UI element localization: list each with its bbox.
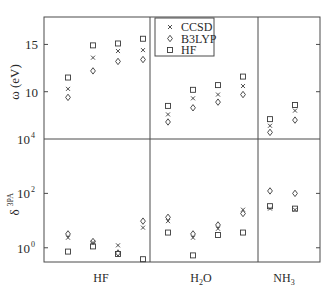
data-point-b3lyp-delta — [116, 250, 121, 256]
data-point-ccsd-energy — [241, 84, 245, 88]
data-point-hf-delta — [216, 232, 221, 237]
data-point-hf-energy — [191, 87, 196, 92]
data-point-ccsd-delta — [116, 243, 120, 247]
data-point-hf-energy — [216, 83, 221, 88]
data-point-ccsd-energy — [66, 87, 70, 91]
data-point-b3lyp-energy — [66, 94, 71, 100]
data-point-hf-delta — [166, 230, 171, 235]
data-point-b3lyp-energy — [216, 99, 221, 105]
y-tick-label: 15 — [25, 37, 38, 52]
chart-svg: 1015100102104ω (eV)δ3PACCSDB3LYPHFHFH2ON… — [0, 0, 335, 292]
data-point-b3lyp-energy — [141, 56, 146, 62]
data-point-hf-energy — [66, 75, 71, 80]
data-point-ccsd-energy — [268, 124, 272, 128]
data-point-hf-delta — [268, 204, 273, 209]
data-point-ccsd-energy — [293, 109, 297, 113]
data-point-b3lyp-energy — [116, 58, 121, 64]
svg-text:δ: δ — [7, 209, 22, 215]
data-point-b3lyp-energy — [191, 105, 196, 111]
data-point-b3lyp-energy — [293, 117, 298, 123]
data-point-hf-delta — [66, 249, 71, 254]
data-point-ccsd-energy — [91, 56, 95, 60]
data-point-ccsd-delta — [141, 226, 145, 230]
data-point-b3lyp-energy — [241, 91, 246, 97]
data-point-hf-energy — [268, 117, 273, 122]
data-point-hf-energy — [91, 43, 96, 48]
y-tick-label: 10 — [17, 132, 30, 147]
x-category-label: NH3 — [273, 271, 294, 287]
legend-label-hf: HF — [181, 43, 197, 57]
chart-container: 1015100102104ω (eV)δ3PACCSDB3LYPHFHFH2ON… — [0, 0, 335, 292]
data-point-hf-energy — [166, 103, 171, 108]
legend-marker-hf — [168, 48, 173, 53]
data-point-hf-energy — [241, 74, 246, 79]
x-category-label: HF — [93, 271, 109, 285]
legend: CCSDB3LYPHF — [155, 18, 217, 57]
x-category-label: H2O — [190, 271, 212, 287]
data-point-b3lyp-energy — [268, 129, 273, 135]
y-tick-label: 10 — [17, 241, 30, 256]
data-point-b3lyp-delta — [293, 190, 298, 196]
y-tick-exponent: 2 — [31, 185, 35, 194]
y-axis-label-energy: ω (eV) — [7, 64, 22, 100]
svg-text:3PA: 3PA — [6, 193, 15, 207]
data-point-b3lyp-delta — [141, 218, 146, 224]
data-point-ccsd-energy — [191, 96, 195, 100]
data-point-hf-energy — [293, 102, 298, 107]
data-point-hf-delta — [241, 230, 246, 235]
data-point-hf-delta — [191, 253, 196, 258]
data-point-hf-delta — [141, 257, 146, 262]
data-point-hf-energy — [116, 41, 121, 46]
data-point-b3lyp-energy — [91, 68, 96, 74]
y-tick-exponent: 0 — [31, 240, 35, 249]
legend-marker-ccsd — [168, 25, 172, 29]
data-point-b3lyp-delta — [268, 188, 273, 194]
data-point-ccsd-energy — [141, 48, 145, 52]
data-point-ccsd-energy — [166, 112, 170, 116]
y-tick-label: 10 — [25, 85, 38, 100]
data-point-hf-energy — [141, 36, 146, 41]
data-point-hf-delta — [293, 206, 298, 211]
y-tick-label: 10 — [17, 186, 30, 201]
data-point-b3lyp-energy — [166, 119, 171, 125]
legend-marker-b3lyp — [168, 35, 173, 41]
y-tick-exponent: 4 — [31, 131, 35, 140]
data-point-ccsd-energy — [116, 49, 120, 53]
data-point-ccsd-energy — [216, 93, 220, 97]
